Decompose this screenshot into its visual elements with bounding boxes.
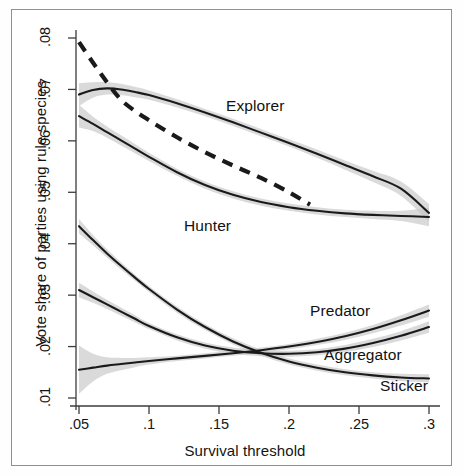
x-tick-label: .15 (194, 416, 244, 432)
y-tick-label: .06 (37, 119, 53, 161)
y-tick-label: .02 (37, 325, 53, 367)
y-tick-label: .08 (37, 16, 53, 58)
x-tick-label: .25 (334, 416, 384, 432)
chart-canvas (0, 0, 464, 476)
confidence-band-hunter (79, 105, 429, 226)
series-label-hunter: Hunter (184, 217, 231, 235)
y-tick-label: .05 (37, 170, 53, 212)
series-label-sticker: Sticker (380, 377, 428, 395)
y-tick-label: .07 (37, 67, 53, 109)
series-label-aggregator: Aggregator (324, 346, 402, 364)
x-axis-title: Survival threshold (130, 442, 360, 459)
x-tick-label: .2 (264, 416, 314, 432)
y-tick-label: .03 (37, 273, 53, 315)
series-label-predator: Predator (310, 302, 370, 320)
y-tick-label: .01 (37, 376, 53, 418)
series-label-explorer: Explorer (226, 97, 285, 115)
figure-container: Vote share of parties using rule species… (0, 0, 464, 476)
y-tick-label: .04 (37, 222, 53, 264)
x-tick-label: .3 (404, 416, 454, 432)
x-tick-label: .1 (124, 416, 174, 432)
x-tick-label: .05 (54, 416, 104, 432)
